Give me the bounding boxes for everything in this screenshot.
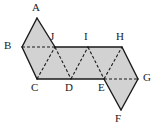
vertex-label-g: G xyxy=(143,72,151,83)
vertex-label-i: I xyxy=(84,31,88,42)
vertex-label-c: C xyxy=(31,82,38,93)
vertex-label-b: B xyxy=(4,40,11,51)
vertex-label-d: D xyxy=(65,82,73,93)
vertex-label-f: F xyxy=(115,113,121,124)
vertex-label-j: J xyxy=(50,31,54,42)
net-diagram-svg xyxy=(0,0,157,129)
vertex-label-h: H xyxy=(116,31,124,42)
vertex-label-e: E xyxy=(98,82,105,93)
net-diagram-figure: ABCDEFGHIJ xyxy=(0,0,157,129)
vertex-label-a: A xyxy=(32,2,40,13)
